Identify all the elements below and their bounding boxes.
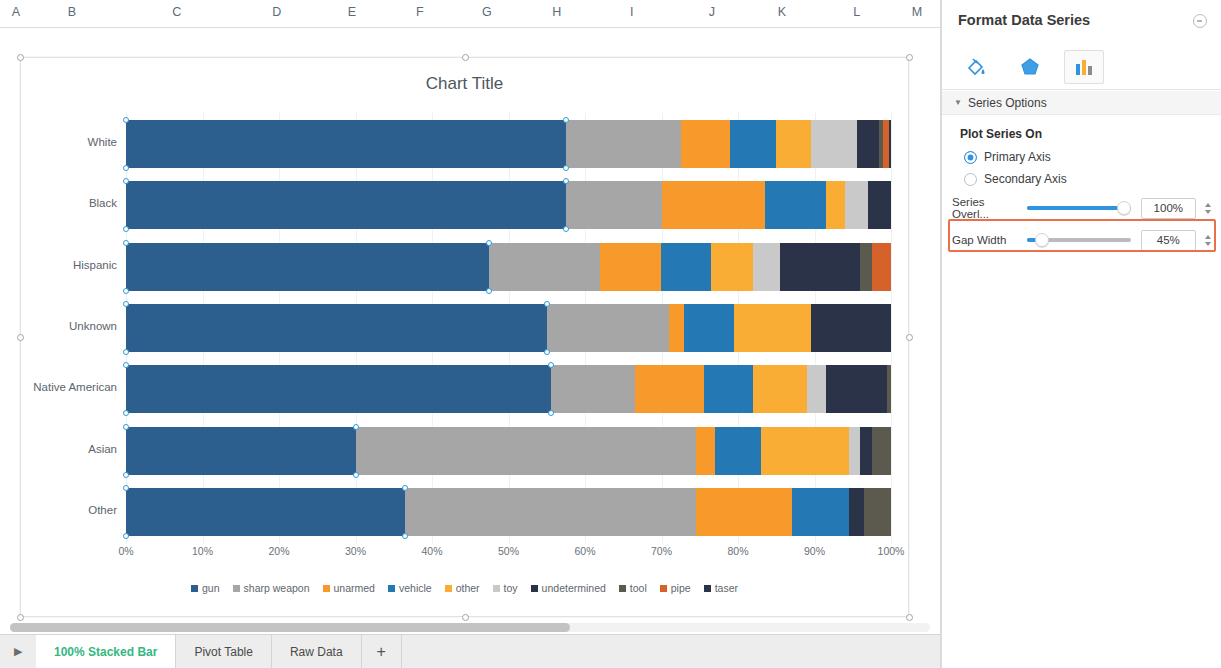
column-header-a[interactable]: A bbox=[4, 5, 28, 19]
bar-segment-other[interactable] bbox=[776, 120, 810, 168]
bar-segment-unarmed[interactable] bbox=[635, 365, 704, 413]
stepper-up-icon[interactable] bbox=[1205, 203, 1211, 207]
bar-segment-sharp-weapon[interactable] bbox=[566, 120, 681, 168]
series-selection-handle[interactable] bbox=[123, 472, 129, 478]
bar-segment-unarmed[interactable] bbox=[681, 120, 731, 168]
sheet-tab-pivot-table[interactable]: Pivot Table bbox=[176, 635, 271, 668]
column-header-l[interactable]: L bbox=[845, 5, 869, 19]
column-header-i[interactable]: I bbox=[620, 5, 644, 19]
radio-primary-axis-indicator[interactable] bbox=[964, 151, 977, 164]
legend-item[interactable]: pipe bbox=[660, 582, 691, 594]
bar-segment-tool[interactable] bbox=[864, 488, 891, 536]
bar-row[interactable]: Native American bbox=[126, 365, 891, 413]
legend-item[interactable]: taser bbox=[704, 582, 738, 594]
chart-legend[interactable]: gunsharp weaponunarmedvehicleothertoyund… bbox=[21, 582, 908, 594]
bar-segment-toy[interactable] bbox=[845, 181, 868, 229]
bar-segment-unarmed[interactable] bbox=[696, 427, 715, 475]
series-selection-handle[interactable] bbox=[123, 410, 129, 416]
stacked-bar[interactable] bbox=[126, 365, 891, 413]
bar-segment-toy[interactable] bbox=[807, 365, 826, 413]
series-selection-handle[interactable] bbox=[123, 301, 129, 307]
bar-segment-tool[interactable] bbox=[887, 365, 891, 413]
chart-resize-handle[interactable] bbox=[17, 614, 24, 621]
bar-segment-vehicle[interactable] bbox=[730, 120, 776, 168]
series-overlap-slider[interactable] bbox=[1027, 201, 1130, 215]
bar-segment-tool[interactable] bbox=[860, 243, 871, 291]
bar-segment-gun[interactable] bbox=[126, 304, 547, 352]
legend-item[interactable]: vehicle bbox=[388, 582, 432, 594]
bar-segment-vehicle[interactable] bbox=[792, 488, 849, 536]
bar-row[interactable]: Unknown bbox=[126, 304, 891, 352]
series-selection-handle[interactable] bbox=[548, 410, 554, 416]
bar-segment-toy[interactable] bbox=[849, 427, 860, 475]
bar-row[interactable]: Other bbox=[126, 488, 891, 536]
stacked-bar[interactable] bbox=[126, 181, 891, 229]
gap-width-slider-knob[interactable] bbox=[1035, 233, 1049, 247]
series-selection-handle[interactable] bbox=[123, 533, 129, 539]
column-header-c[interactable]: C bbox=[165, 5, 189, 19]
legend-item[interactable]: sharp weapon bbox=[233, 582, 310, 594]
bar-segment-other[interactable] bbox=[826, 181, 845, 229]
stepper-down-icon[interactable] bbox=[1205, 210, 1211, 214]
bar-row[interactable]: White bbox=[126, 120, 891, 168]
bar-row[interactable]: Black bbox=[126, 181, 891, 229]
series-selection-handle[interactable] bbox=[123, 424, 129, 430]
sheet-tab-raw-data[interactable]: Raw Data bbox=[272, 635, 362, 668]
bar-segment-vehicle[interactable] bbox=[765, 181, 826, 229]
chart-resize-handle[interactable] bbox=[17, 54, 24, 61]
bar-segment-undetermined[interactable] bbox=[860, 427, 871, 475]
series-selection-handle[interactable] bbox=[544, 349, 550, 355]
column-header-d[interactable]: D bbox=[265, 5, 289, 19]
column-header-g[interactable]: G bbox=[475, 5, 499, 19]
bar-segment-undetermined[interactable] bbox=[868, 181, 891, 229]
radio-primary-axis[interactable]: Primary Axis bbox=[964, 150, 1051, 164]
series-overlap-stepper[interactable] bbox=[1202, 198, 1214, 219]
series-selection-handle[interactable] bbox=[563, 165, 569, 171]
bar-segment-tool[interactable] bbox=[872, 427, 891, 475]
bar-segment-toy[interactable] bbox=[811, 120, 857, 168]
series-chart-icon[interactable] bbox=[1064, 50, 1104, 84]
sheet-tab-100-stacked-bar[interactable]: 100% Stacked Bar bbox=[36, 635, 176, 668]
bar-segment-other[interactable] bbox=[734, 304, 811, 352]
bar-segment-unarmed[interactable] bbox=[662, 181, 765, 229]
bar-segment-sharp-weapon[interactable] bbox=[356, 427, 696, 475]
chart-resize-handle[interactable] bbox=[462, 614, 469, 621]
radio-secondary-axis-indicator[interactable] bbox=[964, 173, 977, 186]
add-sheet-button[interactable]: + bbox=[362, 635, 402, 668]
series-selection-handle[interactable] bbox=[402, 533, 408, 539]
series-selection-handle[interactable] bbox=[563, 226, 569, 232]
gap-width-slider[interactable] bbox=[1027, 233, 1130, 247]
stacked-bar[interactable] bbox=[126, 304, 891, 352]
bar-segment-undetermined[interactable] bbox=[857, 120, 880, 168]
bar-segment-toy[interactable] bbox=[753, 243, 780, 291]
stacked-bar[interactable] bbox=[126, 427, 891, 475]
close-icon[interactable] bbox=[1193, 14, 1207, 28]
series-overlap-value[interactable]: 100% bbox=[1141, 198, 1197, 219]
column-header-e[interactable]: E bbox=[340, 5, 364, 19]
stepper-up-icon[interactable] bbox=[1205, 235, 1211, 239]
legend-item[interactable]: unarmed bbox=[323, 582, 375, 594]
bar-segment-gun[interactable] bbox=[126, 120, 566, 168]
stacked-bar[interactable] bbox=[126, 243, 891, 291]
bar-segment-vehicle[interactable] bbox=[704, 365, 754, 413]
series-selection-handle[interactable] bbox=[123, 349, 129, 355]
legend-item[interactable]: gun bbox=[191, 582, 220, 594]
column-header-j[interactable]: J bbox=[700, 5, 724, 19]
bar-segment-vehicle[interactable] bbox=[715, 427, 761, 475]
chart-resize-handle[interactable] bbox=[462, 54, 469, 61]
plot-area[interactable]: WhiteBlackHispanicUnknownNative American… bbox=[126, 113, 891, 543]
series-selection-handle[interactable] bbox=[123, 288, 129, 294]
bar-row[interactable]: Hispanic bbox=[126, 243, 891, 291]
bar-segment-undetermined[interactable] bbox=[826, 365, 887, 413]
bar-segment-gun[interactable] bbox=[126, 243, 489, 291]
series-selection-handle[interactable] bbox=[563, 178, 569, 184]
series-selection-handle[interactable] bbox=[353, 472, 359, 478]
series-selection-handle[interactable] bbox=[123, 226, 129, 232]
bar-segment-vehicle[interactable] bbox=[684, 304, 734, 352]
bar-segment-other[interactable] bbox=[753, 365, 807, 413]
chart-resize-handle[interactable] bbox=[906, 54, 913, 61]
bar-row[interactable]: Asian bbox=[126, 427, 891, 475]
bar-segment-unarmed[interactable] bbox=[669, 304, 684, 352]
legend-item[interactable]: tool bbox=[619, 582, 647, 594]
column-header-f[interactable]: F bbox=[408, 5, 432, 19]
